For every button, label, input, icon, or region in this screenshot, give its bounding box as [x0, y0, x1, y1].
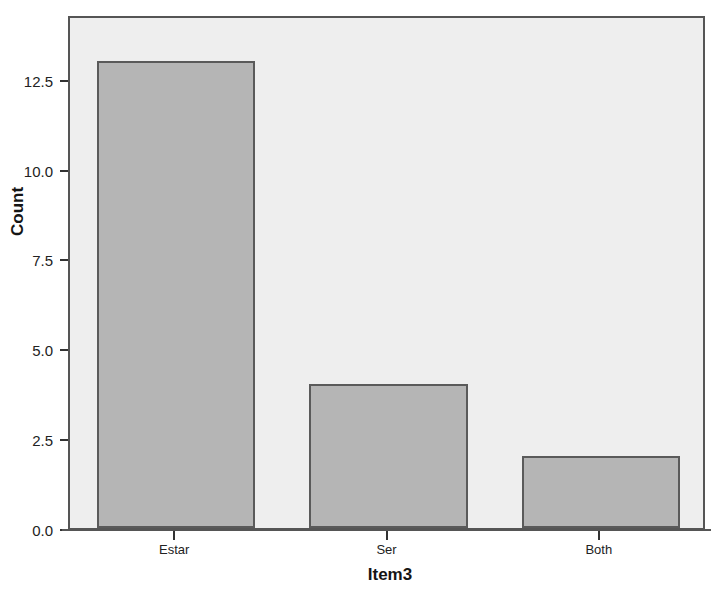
- x-tick-label-both: Both: [585, 542, 612, 557]
- y-tick-label: 2.5: [32, 433, 53, 448]
- y-tick-label: 12.5: [24, 74, 53, 89]
- x-tick: [598, 531, 600, 540]
- y-tick: [60, 170, 68, 172]
- y-tick: [60, 439, 68, 441]
- bar-both: [522, 456, 680, 528]
- y-tick-label: 7.5: [32, 253, 53, 268]
- x-axis-title: Item3: [0, 565, 725, 585]
- y-axis-line: [68, 16, 70, 530]
- y-tick-label: 0.0: [32, 523, 53, 538]
- y-tick: [60, 349, 68, 351]
- y-tick: [60, 80, 68, 82]
- x-tick: [173, 531, 175, 540]
- bar-estar: [97, 61, 255, 528]
- plot-frame: [68, 16, 705, 530]
- x-tick-label-estar: Estar: [159, 542, 189, 557]
- x-tick-label-ser: Ser: [376, 542, 396, 557]
- x-tick: [386, 531, 388, 540]
- y-tick-label: 5.0: [32, 343, 53, 358]
- plot-area: [70, 18, 703, 528]
- bar-chart: 0.02.55.07.510.012.5 Count EstarSerBoth …: [0, 0, 725, 599]
- y-axis-title: Count: [8, 187, 28, 236]
- y-tick-label: 10.0: [24, 164, 53, 179]
- y-tick: [60, 259, 68, 261]
- bar-ser: [309, 384, 467, 528]
